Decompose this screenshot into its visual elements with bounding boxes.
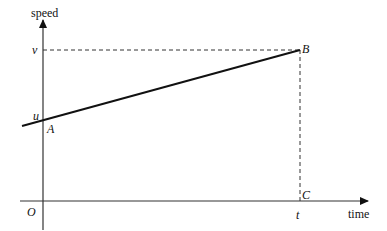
line-ab [22,50,300,126]
point-b-label: B [302,42,310,56]
tick-u-label: u [33,109,39,123]
y-axis-label: speed [31,6,58,20]
tick-v-label: v [32,43,38,57]
origin-label: O [27,205,36,219]
point-a-label: A [46,122,55,136]
point-c-label: C [302,188,311,202]
speed-time-diagram: speed time O v u t A B C [0,0,387,231]
x-axis-label: time [348,207,369,221]
tick-t-label: t [296,208,300,222]
